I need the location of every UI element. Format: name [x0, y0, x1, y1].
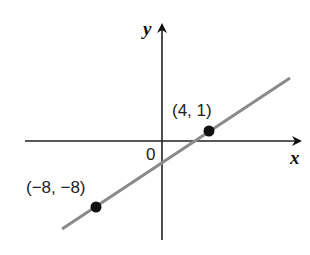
- point-4-1: [204, 126, 215, 137]
- point-label-4-1: (4, 1): [172, 101, 212, 120]
- point-label-neg8-neg8: (−8, −8): [26, 178, 86, 197]
- origin-label: 0: [146, 145, 155, 164]
- point-neg8-neg8: [91, 202, 102, 213]
- x-axis-label: x: [289, 147, 300, 168]
- coordinate-plane: y x 0 (4, 1) (−8, −8): [0, 0, 310, 255]
- y-axis-label: y: [141, 18, 152, 39]
